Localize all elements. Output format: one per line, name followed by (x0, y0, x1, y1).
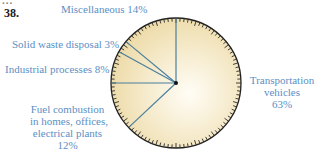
label-fuel-combustion: Fuel combustion in homes, offices, elect… (30, 103, 105, 151)
label-line: in homes, offices, (30, 115, 105, 127)
label-transportation: Transportation vehicles 63% (249, 74, 315, 110)
label-line: Fuel combustion (30, 103, 105, 115)
label-line: vehicles (249, 86, 315, 98)
label-line: 63% (249, 98, 315, 110)
label-line: electrical plants (30, 127, 105, 139)
label-line: Transportation (249, 74, 315, 86)
label-solid-waste: Solid waste disposal 3% (12, 38, 119, 50)
label-line: 12% (30, 139, 105, 151)
label-industrial: Industrial processes 8% (5, 63, 109, 75)
pie-center-dot (174, 81, 178, 85)
label-miscellaneous: Miscellaneous 14% (61, 3, 147, 15)
